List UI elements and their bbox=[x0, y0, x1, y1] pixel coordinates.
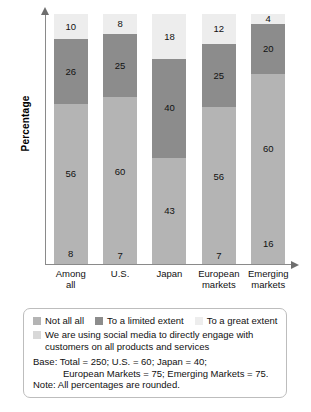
bar-segment: 18 bbox=[152, 14, 186, 59]
legend-swatch bbox=[195, 317, 203, 325]
bar-segment-value: 20 bbox=[263, 44, 274, 54]
bar-segment-value: 12 bbox=[214, 24, 225, 34]
bar-segment: 20 bbox=[251, 24, 285, 74]
bar-segment: 56 bbox=[202, 107, 236, 247]
bar-among-all: 1026568 bbox=[54, 14, 88, 264]
bar-segment: 8 bbox=[54, 244, 88, 264]
x-axis-label: Emergingmarkets bbox=[245, 268, 291, 290]
bar-segment-value: 8 bbox=[117, 19, 122, 29]
footnote-note: Note: All percentages are rounded. bbox=[33, 379, 278, 391]
x-axis-label: Amongall bbox=[48, 268, 94, 290]
bar-segment: 7 bbox=[202, 247, 236, 265]
y-axis-title: Percentage bbox=[20, 79, 31, 169]
bar-segment-value: 18 bbox=[164, 32, 175, 42]
chart-region: Percentage 10265688256071840431225567420… bbox=[0, 0, 311, 300]
bar-segment-value: 25 bbox=[214, 71, 225, 81]
footnote-base-line1: Base: Total = 250; U.S. = 60; Japan = 40… bbox=[33, 356, 278, 368]
bar-segment-value: 7 bbox=[216, 251, 221, 261]
bar-segment: 43 bbox=[152, 158, 186, 264]
bar-segment-value: 60 bbox=[115, 167, 126, 177]
bar-segment: 40 bbox=[152, 59, 186, 158]
legend-swatch-using-social-media bbox=[33, 331, 41, 339]
bar-segment: 26 bbox=[54, 39, 88, 104]
bar-segment-value: 16 bbox=[263, 239, 274, 249]
legend-item-using-social-media: We are using social media to directly en… bbox=[33, 329, 278, 352]
bar-segment: 7 bbox=[103, 247, 137, 265]
legend-box: Not all allTo a limited extentTo a great… bbox=[23, 308, 287, 398]
bar-segment: 56 bbox=[54, 104, 88, 244]
bar-european-markets: 1225567 bbox=[202, 14, 236, 264]
bar-segment-value: 56 bbox=[65, 169, 76, 179]
bar-segment: 25 bbox=[103, 34, 137, 97]
bar-segment-value: 25 bbox=[115, 61, 126, 71]
bar-japan: 184043 bbox=[152, 14, 186, 264]
bar-emerging-markets: 4206016 bbox=[251, 14, 285, 264]
bar-segment: 60 bbox=[103, 97, 137, 247]
x-axis-label: Japan bbox=[146, 268, 192, 290]
bar-segment-value: 7 bbox=[117, 251, 122, 261]
bar-segment-value: 60 bbox=[263, 144, 274, 154]
legend-item: Not all all bbox=[33, 315, 84, 326]
x-axis-line bbox=[45, 264, 293, 265]
footnote-base-line2: European Markets = 75; Emerging Markets … bbox=[33, 368, 278, 380]
bar-segment-value: 56 bbox=[214, 172, 225, 182]
legend-inline-row: Not all allTo a limited extentTo a great… bbox=[33, 315, 278, 326]
bar-segment-value: 4 bbox=[266, 14, 271, 24]
bar-segment: 8 bbox=[103, 14, 137, 34]
legend-label: To a great extent bbox=[207, 315, 278, 326]
bar-segment-value: 26 bbox=[65, 67, 76, 77]
bar-segment: 12 bbox=[202, 14, 236, 44]
bar-segment: 60 bbox=[251, 74, 285, 224]
bar-segment: 4 bbox=[251, 14, 285, 24]
x-axis-label: Europeanmarkets bbox=[196, 268, 242, 290]
bar-u-s: 825607 bbox=[103, 14, 137, 264]
legend-label-using-social-media: We are using social media to directly en… bbox=[45, 329, 278, 352]
bar-segment-value: 8 bbox=[68, 249, 73, 259]
bar-segment-value: 43 bbox=[164, 206, 175, 216]
bar-segment: 16 bbox=[251, 224, 285, 264]
legend-label: Not all all bbox=[45, 315, 84, 326]
bar-group: 102656882560718404312255674206016 bbox=[46, 14, 293, 264]
legend-swatch bbox=[33, 317, 41, 325]
footnotes: Base: Total = 250; U.S. = 60; Japan = 40… bbox=[33, 356, 278, 391]
bar-segment-value: 40 bbox=[164, 103, 175, 113]
legend-swatch bbox=[95, 317, 103, 325]
legend-item: To a great extent bbox=[195, 315, 278, 326]
legend-item: To a limited extent bbox=[95, 315, 184, 326]
x-axis-label: U.S. bbox=[97, 268, 143, 290]
x-axis-category-labels: AmongallU.S.JapanEuropeanmarketsEmerging… bbox=[46, 268, 293, 290]
legend-label: To a limited extent bbox=[107, 315, 184, 326]
bar-segment: 25 bbox=[202, 44, 236, 107]
bar-segment-value: 10 bbox=[65, 22, 76, 32]
bar-segment: 10 bbox=[54, 14, 88, 39]
